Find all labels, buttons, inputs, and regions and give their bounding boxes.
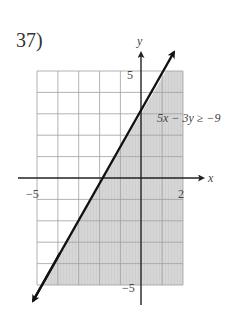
x-min-tick-label: −5 bbox=[26, 187, 39, 201]
y-max-tick-label: 5 bbox=[127, 68, 133, 82]
y-axis-label: y bbox=[136, 34, 143, 48]
x-max-tick-label: 2 bbox=[178, 187, 184, 201]
shaded-region bbox=[37, 71, 183, 292]
x-axis-label: x bbox=[207, 171, 214, 185]
inequality-graph: y x 5 −5 −5 2 5x − 3y ≥ −9 bbox=[0, 0, 241, 325]
inequality-label: 5x − 3y ≥ −9 bbox=[157, 111, 220, 125]
y-min-tick-label: −5 bbox=[122, 281, 135, 295]
